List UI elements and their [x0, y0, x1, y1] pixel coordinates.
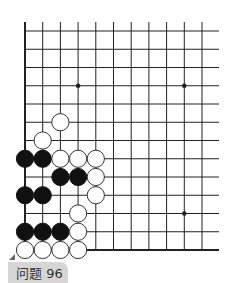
white-stone-icon[interactable] [70, 223, 87, 240]
black-stone-icon[interactable] [52, 168, 69, 185]
corner-marker-icon [9, 254, 15, 260]
white-stone-icon[interactable] [52, 114, 69, 131]
white-stone-icon[interactable] [34, 132, 51, 149]
white-stone-icon[interactable] [16, 241, 33, 258]
problem-number-text: 问题 96 [16, 263, 63, 282]
white-stone-icon[interactable] [87, 168, 104, 185]
white-stone-icon[interactable] [87, 150, 104, 167]
black-stone-icon[interactable] [52, 223, 69, 240]
black-stone-icon[interactable] [16, 150, 33, 167]
white-stone-icon[interactable] [52, 150, 69, 167]
star-point-icon [182, 211, 187, 216]
white-stone-icon[interactable] [70, 205, 87, 222]
black-stone-icon[interactable] [16, 187, 33, 204]
white-stone-icon[interactable] [70, 241, 87, 258]
black-stone-icon[interactable] [34, 150, 51, 167]
black-stone-icon[interactable] [34, 223, 51, 240]
black-stone-icon[interactable] [16, 223, 33, 240]
star-point-icon [182, 83, 187, 88]
go-board [0, 0, 241, 260]
white-stone-icon[interactable] [70, 150, 87, 167]
white-stone-icon[interactable] [87, 187, 104, 204]
white-stone-icon[interactable] [34, 241, 51, 258]
black-stone-icon[interactable] [34, 187, 51, 204]
star-point-icon [76, 83, 81, 88]
black-stone-icon[interactable] [70, 168, 87, 185]
problem-label: 问题 96 [8, 262, 68, 283]
white-stone-icon[interactable] [52, 241, 69, 258]
